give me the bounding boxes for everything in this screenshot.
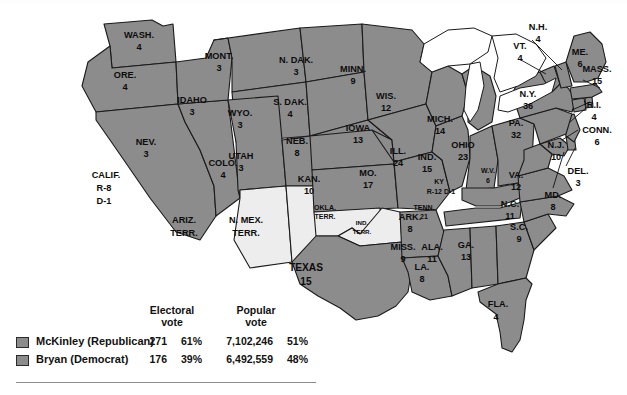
label-indiana-name: IND.	[418, 152, 436, 162]
label-vermont-name: VT.	[513, 41, 526, 51]
label-washington-name: WASH.	[124, 30, 154, 40]
label-florida-name: FLA.	[488, 299, 508, 309]
label-pennsylvania-name: PA.	[509, 118, 524, 128]
label-minnesota-votes: 9	[350, 76, 355, 86]
label-california-d: D-1	[97, 196, 112, 206]
legend-popular-votes-bryan: 6,492,559	[211, 353, 273, 365]
label-iowa-votes: 13	[353, 135, 363, 145]
state-florida[interactable]	[478, 278, 532, 352]
label-new-jersey-votes: 10	[551, 152, 561, 162]
label-south-carolina-name: S.C.	[510, 222, 528, 232]
label-maryland-name: MD.	[545, 190, 562, 200]
label-nevada-votes: 3	[143, 149, 148, 159]
label-new-york-votes: 36	[523, 101, 533, 111]
label-pennsylvania-votes: 32	[511, 130, 521, 140]
label-colorado-votes: 4	[220, 170, 226, 180]
label-mississippi-name: MISS.	[390, 242, 415, 252]
label-arizona-name: ARIZ.	[172, 215, 196, 225]
label-west-virginia-name: W.V.	[481, 167, 495, 174]
label-kentucky-name: KY	[434, 178, 444, 185]
label-massachusetts-votes: 15	[592, 76, 602, 86]
label-tennessee-name: TENN.	[414, 204, 435, 211]
label-west-virginia-votes: 6	[486, 177, 490, 184]
legend-popular-pct-bryan: 48%	[278, 353, 308, 365]
label-colorado-name: COLO.	[208, 158, 237, 168]
legend-swatch-mckinley	[16, 337, 29, 348]
label-wyoming-name: WYO.	[228, 108, 253, 118]
label-georgia-name: GA.	[458, 240, 474, 250]
legend-header-electoral-line1: Electoral	[141, 304, 203, 316]
label-massachusetts-name: MASS.	[582, 64, 611, 74]
label-wisconsin-name: WIS.	[376, 91, 396, 101]
label-montana-votes: 3	[216, 63, 221, 73]
label-north-dakota-votes: 3	[293, 67, 298, 77]
label-south-dakota-votes: 4	[287, 109, 293, 119]
label-new-hampshire-votes: 4	[535, 34, 541, 44]
label-delaware-votes: 3	[575, 178, 580, 188]
map-legend: Electoral vote Popular vote McKinley (Re…	[8, 300, 338, 390]
label-new-jersey-name: N.J.	[548, 140, 565, 150]
legend-candidate-mckinley: McKinley (Republican)	[36, 335, 146, 347]
label-oregon-name: ORE.	[114, 70, 136, 80]
label-kentucky-split: R-12 D-1	[427, 188, 456, 195]
label-kansas-votes: 10	[304, 186, 314, 196]
label-iowa-name: IOWA	[346, 123, 371, 133]
label-florida-votes: 4	[493, 312, 499, 322]
label-nebraska-name: NEB.	[286, 136, 308, 146]
label-new-mexico-terr: TERR.	[232, 228, 260, 238]
label-vermont-votes: 4	[517, 53, 523, 63]
label-ohio-votes: 23	[458, 152, 468, 162]
state-idaho[interactable]	[176, 38, 232, 104]
legend-header-electoral: Electoral vote	[141, 304, 203, 328]
state-alabama[interactable]	[470, 226, 498, 288]
legend-electoral-pct-bryan: 39%	[172, 353, 202, 365]
legend-header-popular: Popular vote	[213, 304, 299, 328]
legend-electoral-pct-mckinley: 61%	[172, 335, 202, 347]
legend-divider	[16, 382, 316, 383]
label-maine-votes: 6	[577, 59, 582, 69]
territory-arizona[interactable]	[234, 186, 292, 268]
label-california-r: R-8	[97, 183, 112, 193]
label-indian-terr-name: IND.	[356, 219, 369, 226]
label-alabama-votes: 11	[427, 254, 437, 264]
legend-header-popular-line2: vote	[213, 316, 299, 328]
label-georgia-votes: 13	[461, 252, 471, 262]
label-ohio-name: OHIO	[451, 140, 474, 150]
label-delaware-name: DEL.	[568, 166, 589, 176]
label-wyoming-votes: 3	[237, 120, 242, 130]
label-washington-votes: 4	[136, 42, 142, 52]
label-texas-name: TEXAS	[289, 262, 323, 273]
label-nebraska-votes: 8	[294, 148, 299, 158]
label-connecticut-votes: 6	[594, 137, 599, 147]
label-virginia-votes: 12	[511, 182, 521, 192]
label-south-dakota-name: S. DAK.	[273, 97, 307, 107]
label-michigan-votes: 14	[435, 126, 446, 136]
legend-popular-votes-mckinley: 7,102,246	[211, 335, 273, 347]
label-illinois-name: ILL.	[390, 146, 406, 156]
label-new-hampshire-name: N.H.	[529, 22, 547, 32]
label-maryland-votes: 8	[550, 202, 555, 212]
label-missouri-name: MO.	[359, 168, 376, 178]
label-north-carolina-name: N.C.	[501, 199, 519, 209]
label-montana-name: MONT.	[205, 51, 234, 61]
label-arizona-terr: TERR.	[170, 228, 198, 238]
label-alabama-name: ALA.	[421, 242, 442, 252]
label-arkansas-name: ARK.	[399, 212, 421, 222]
label-south-carolina-votes: 9	[516, 234, 521, 244]
label-michigan-name: MICH.	[427, 114, 453, 124]
label-nevada-name: NEV.	[136, 137, 157, 147]
label-missouri-votes: 17	[363, 180, 373, 190]
legend-header-electoral-line2: vote	[141, 316, 203, 328]
label-maine-name: ME.	[572, 47, 588, 57]
lake-superior	[420, 28, 492, 72]
label-idaho-name: IDAHO	[177, 95, 207, 105]
label-kansas-name: KAN.	[298, 174, 320, 184]
label-illinois-votes: 24	[393, 158, 404, 168]
label-oklahoma-terr: TERR.	[315, 213, 336, 220]
legend-candidate-bryan: Bryan (Democrat)	[36, 353, 146, 365]
legend-popular-pct-mckinley: 51%	[278, 335, 308, 347]
label-north-carolina-votes: 11	[505, 211, 515, 221]
label-virginia-name: VA.	[509, 170, 524, 180]
label-oregon-votes: 4	[122, 82, 128, 92]
label-minnesota-name: MINN.	[340, 64, 366, 74]
